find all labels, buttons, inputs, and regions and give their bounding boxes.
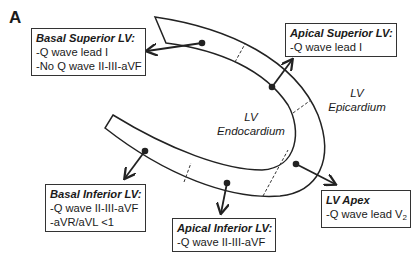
arrow-basal-inferior: [125, 148, 148, 178]
box-apical-inferior: Apical Inferior LV: -Q wave II-III-aVF: [172, 218, 276, 252]
arrow-apical-superior: [269, 60, 292, 90]
box-basal-inferior: Basal Inferior LV: -Q wave II-III-aVF -a…: [45, 184, 146, 232]
arrow-apical-inferior: [221, 180, 230, 213]
epicardium-label: LV Epicardium: [322, 86, 392, 114]
endocardium-label: LV Endocardium: [216, 110, 286, 138]
box-basal-superior: Basal Superior LV: -Q wave lead I -No Q …: [31, 28, 146, 76]
box-lv-apex: LV Apex -Q wave lead V2: [321, 190, 411, 228]
divider-apex-lower: [263, 150, 288, 196]
box-apical-superior: Apical Superior LV: -Q wave lead I: [285, 23, 397, 57]
divider-superior: [235, 44, 245, 62]
divider-apex-upper: [293, 100, 311, 113]
